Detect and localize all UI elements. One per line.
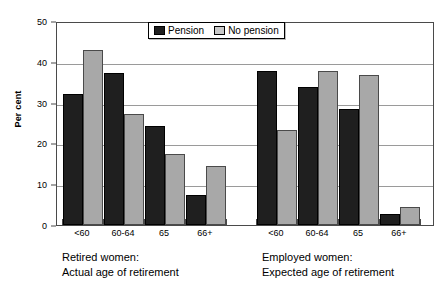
y-axis-tick-label: 30: [37, 99, 47, 109]
legend-label-pension: Pension: [168, 25, 204, 36]
bar-pension-60-64-p0: [104, 73, 124, 225]
bar-pension-60-64-p1: [298, 87, 318, 225]
bar-nopension-65-p0: [165, 154, 185, 225]
bar-pension-65-p0: [145, 126, 165, 225]
x-axis-tick-label: 60-64: [111, 228, 134, 238]
x-axis-tick-label: <60: [268, 228, 283, 238]
bar-nopension-60-64-p1: [318, 71, 338, 225]
x-axis-tick-label: 60-64: [305, 228, 328, 238]
bar-nopension-60-p1: [277, 130, 297, 225]
x-axis-tick-mark: [297, 219, 298, 225]
x-axis-tick-mark: [226, 219, 227, 225]
bar-pension-66-p1: [380, 214, 400, 225]
legend-entry-no-pension: No pension: [214, 25, 279, 36]
y-axis-tick-label: 50: [37, 17, 47, 27]
legend-swatch-pension-icon: [154, 26, 165, 35]
bar-chart: Per cent 01020304050 <6060-646566+<6060-…: [0, 0, 447, 288]
panel-caption-employed-line2: Expected age of retirement: [262, 265, 394, 280]
x-axis-tick-mark: [420, 219, 421, 225]
plot-area: [56, 22, 434, 226]
x-axis-tick-mark: [185, 219, 186, 225]
legend-entry-pension: Pension: [154, 25, 204, 36]
panel-caption-employed-line1: Employed women:: [262, 250, 394, 265]
x-axis-tick-label: 65: [159, 228, 169, 238]
y-axis-tick-labels: 01020304050: [0, 0, 56, 228]
panel-caption-retired-line1: Retired women:: [62, 250, 179, 265]
x-axis-tick-labels: <6060-646566+<6060-646566+: [0, 228, 447, 244]
bar-nopension-66-p0: [206, 166, 226, 225]
bar-pension-60-p1: [257, 71, 277, 225]
bar-nopension-65-p1: [359, 75, 379, 225]
x-axis-tick-label: 66+: [197, 228, 212, 238]
panel-caption-retired: Retired women: Actual age of retirement: [62, 250, 179, 280]
x-axis-tick-mark: [379, 219, 380, 225]
x-axis-tick-mark: [144, 219, 145, 225]
bar-series-container: [57, 23, 433, 225]
panel-caption-employed: Employed women: Expected age of retireme…: [262, 250, 394, 280]
x-axis-tick-mark: [256, 219, 257, 225]
x-axis-tick-mark: [338, 219, 339, 225]
legend-label-no-pension: No pension: [228, 25, 279, 36]
legend: Pension No pension: [148, 22, 285, 39]
y-axis-tick-label: 20: [37, 139, 47, 149]
y-axis-tick-label: 10: [37, 180, 47, 190]
y-axis-tick-label: 40: [37, 58, 47, 68]
bar-nopension-60-p0: [83, 50, 103, 225]
bar-pension-60-p0: [63, 94, 83, 225]
bar-pension-66-p0: [186, 195, 206, 225]
bar-nopension-66-p1: [400, 207, 420, 225]
legend-swatch-no-pension-icon: [214, 26, 225, 35]
bar-nopension-60-64-p0: [124, 114, 144, 225]
x-axis-tick-label: 65: [353, 228, 363, 238]
bar-pension-65-p1: [339, 109, 359, 225]
x-axis-tick-mark: [62, 219, 63, 225]
panel-caption-retired-line2: Actual age of retirement: [62, 265, 179, 280]
x-axis-tick-label: 66+: [391, 228, 406, 238]
x-axis-tick-mark: [103, 219, 104, 225]
x-axis-tick-label: <60: [74, 228, 89, 238]
